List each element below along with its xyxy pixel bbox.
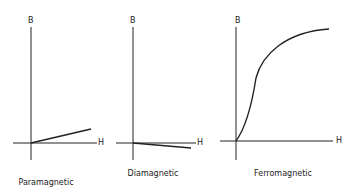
diamagnetic-plot [116,27,196,160]
h-axis-label: H [336,136,342,145]
diamagnetic-caption: Diamagnetic [128,169,179,178]
ferromagnetic-caption: Ferromagnetic [254,169,312,178]
b-axis-label: B [235,16,241,25]
ferromagnetic-curve [236,29,329,141]
bh-curves-diagram [0,0,354,194]
b-axis-label: B [130,16,136,25]
h-axis-label: H [98,138,104,147]
paramagnetic-caption: Paramagnetic [18,178,73,187]
h-axis-label: H [197,138,203,147]
diamagnetic-curve [133,143,191,148]
paramagnetic-plot [13,27,97,160]
ferromagnetic-plot [220,27,333,160]
paramagnetic-curve [31,129,91,143]
b-axis-label: B [28,16,34,25]
